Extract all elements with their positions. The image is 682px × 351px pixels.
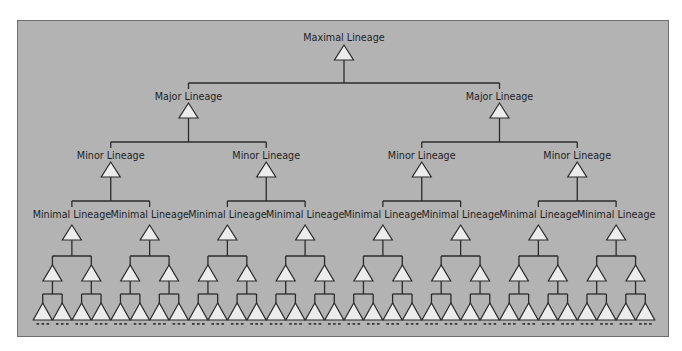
sub-level-1-lineage-node bbox=[431, 265, 450, 305]
lineage-triangle-icon bbox=[62, 225, 81, 240]
ellipsis-dot-icon bbox=[119, 323, 122, 325]
lineage-triangle-icon bbox=[539, 303, 558, 320]
lineage-triangle-icon bbox=[577, 303, 596, 320]
lineage-triangle-icon bbox=[121, 265, 140, 281]
major-lineage-node: Major Lineage bbox=[422, 91, 578, 148]
ellipsis-dot-icon bbox=[231, 323, 234, 325]
ellipsis-dot-icon bbox=[396, 323, 399, 325]
sub-level-1-lineage-node bbox=[626, 265, 645, 305]
lineage-label: Minimal Lineage bbox=[33, 209, 112, 220]
minimal-lineage-node: Minimal Lineage bbox=[266, 209, 345, 267]
lineage-triangle-icon bbox=[344, 303, 363, 320]
ellipsis-dot-icon bbox=[80, 323, 83, 325]
ellipsis-dot-icon bbox=[430, 323, 433, 325]
sub-level-2-lineage-node bbox=[111, 303, 130, 325]
ellipsis-dot-icon bbox=[47, 323, 50, 325]
ellipsis-dot-icon bbox=[163, 323, 166, 325]
lineage-triangle-icon bbox=[286, 303, 305, 320]
ellipsis-dot-icon bbox=[37, 323, 40, 325]
lineage-triangle-icon bbox=[383, 303, 402, 320]
level-sub-level-2 bbox=[33, 303, 655, 325]
ellipsis-dot-icon bbox=[66, 323, 69, 325]
minimal-lineage-node: Minimal Lineage bbox=[421, 209, 500, 267]
lineage-triangle-icon bbox=[53, 303, 72, 320]
lineage-triangle-icon bbox=[237, 265, 256, 281]
ellipsis-dot-icon bbox=[630, 323, 633, 325]
ellipsis-dot-icon bbox=[299, 323, 302, 325]
lineage-triangle-icon bbox=[33, 303, 52, 320]
ellipsis-dot-icon bbox=[42, 323, 45, 325]
ellipsis-dot-icon bbox=[192, 323, 195, 325]
sub-level-2-lineage-node bbox=[150, 303, 169, 325]
lineage-triangle-icon bbox=[189, 303, 208, 320]
ellipsis-dot-icon bbox=[503, 323, 506, 325]
lineage-tree: Maximal LineageMajor LineageMajor Lineag… bbox=[0, 0, 682, 351]
ellipsis-dot-icon bbox=[552, 323, 555, 325]
ellipsis-dot-icon bbox=[270, 323, 273, 325]
ellipsis-dot-icon bbox=[367, 323, 370, 325]
lineage-label: Minimal Lineage bbox=[110, 209, 189, 220]
ellipsis-dot-icon bbox=[522, 323, 525, 325]
sub-level-2-lineage-node bbox=[53, 303, 72, 325]
ellipsis-dot-icon bbox=[211, 323, 214, 325]
sub-level-2-lineage-node bbox=[72, 303, 91, 325]
sub-level-2-lineage-node bbox=[577, 303, 596, 325]
lineage-triangle-icon bbox=[412, 162, 431, 177]
sub-level-2-lineage-node bbox=[500, 303, 519, 325]
ellipsis-dot-icon bbox=[411, 323, 414, 325]
ellipsis-dot-icon bbox=[445, 323, 448, 325]
ellipsis-dot-icon bbox=[469, 323, 472, 325]
sub-level-1-lineage-node bbox=[43, 265, 62, 305]
lineage-triangle-icon bbox=[558, 303, 577, 320]
level-sub-level-1 bbox=[43, 265, 646, 305]
maximal-lineage-node: Maximal Lineage bbox=[189, 32, 500, 89]
ellipsis-dot-icon bbox=[124, 323, 127, 325]
ellipsis-dot-icon bbox=[358, 323, 361, 325]
lineage-triangle-icon bbox=[354, 265, 373, 281]
lineage-triangle-icon bbox=[198, 265, 217, 281]
ellipsis-dot-icon bbox=[250, 323, 253, 325]
ellipsis-dot-icon bbox=[639, 323, 642, 325]
lineage-triangle-icon bbox=[587, 265, 606, 281]
sub-level-2-lineage-node bbox=[286, 303, 305, 325]
sub-level-2-lineage-node bbox=[247, 303, 266, 325]
ellipsis-dot-icon bbox=[260, 323, 263, 325]
sub-level-1-lineage-node bbox=[237, 265, 256, 305]
sub-level-2-lineage-node bbox=[92, 303, 111, 325]
ellipsis-dot-icon bbox=[173, 323, 176, 325]
sub-level-2-lineage-node bbox=[344, 303, 363, 325]
sub-level-1-lineage-node bbox=[315, 265, 334, 305]
ellipsis-dot-icon bbox=[542, 323, 545, 325]
sub-level-2-lineage-node bbox=[461, 303, 480, 325]
sub-level-1-lineage-node bbox=[120, 265, 139, 305]
sub-level-2-lineage-node bbox=[480, 303, 499, 325]
ellipsis-dot-icon bbox=[605, 323, 608, 325]
ellipsis-dot-icon bbox=[527, 323, 530, 325]
lineage-triangle-icon bbox=[519, 303, 538, 320]
ellipsis-dot-icon bbox=[144, 323, 147, 325]
lineage-triangle-icon bbox=[335, 45, 354, 60]
major-lineage-node: Major Lineage bbox=[111, 91, 267, 148]
lineage-triangle-icon bbox=[92, 303, 111, 320]
ellipsis-dot-icon bbox=[202, 323, 205, 325]
lineage-triangle-icon bbox=[597, 303, 616, 320]
sub-level-1-lineage-node bbox=[548, 265, 567, 305]
ellipsis-dot-icon bbox=[183, 323, 186, 325]
ellipsis-dot-icon bbox=[561, 323, 564, 325]
ellipsis-dot-icon bbox=[591, 323, 594, 325]
sub-level-2-lineage-node bbox=[403, 303, 422, 325]
ellipsis-dot-icon bbox=[139, 323, 142, 325]
sub-level-1-lineage-node bbox=[470, 265, 489, 305]
ellipsis-dot-icon bbox=[455, 323, 458, 325]
ellipsis-dot-icon bbox=[178, 323, 181, 325]
lineage-triangle-icon bbox=[82, 265, 101, 281]
lineage-triangle-icon bbox=[451, 225, 470, 240]
minor-lineage-node: Minor Lineage bbox=[72, 150, 150, 207]
sub-level-1-lineage-node bbox=[82, 265, 101, 305]
lineage-triangle-icon bbox=[296, 225, 315, 240]
lineage-label: Minimal Lineage bbox=[266, 209, 345, 220]
level-maximal: Maximal Lineage bbox=[189, 32, 500, 89]
ellipsis-dot-icon bbox=[134, 323, 137, 325]
ellipsis-dot-icon bbox=[95, 323, 98, 325]
ellipsis-dot-icon bbox=[406, 323, 409, 325]
